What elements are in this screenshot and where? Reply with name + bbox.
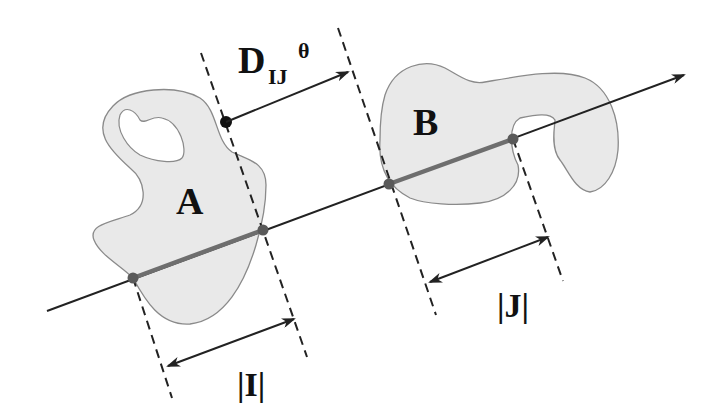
interval-j-arrow [430,237,548,282]
dot-b-start [384,179,395,190]
dot-a-end [258,225,269,236]
dot-b-end [508,134,519,145]
label-shape-b: B [413,101,438,143]
diagram-canvas: A B D IJ θ |I| |J| [0,0,715,419]
label-interval-j: |J| [497,287,529,324]
dot-a-start [128,273,139,284]
interval-i-arrow [168,319,294,366]
diagram-svg: A B D IJ θ |I| |J| [0,0,715,419]
label-distance-sub: IJ [268,64,288,89]
dashed-line-b-right [513,139,563,281]
label-distance-sup: θ [298,38,309,63]
label-interval-i: |I| [237,366,265,403]
label-shape-a: A [176,180,204,222]
label-distance-main: D [238,39,265,81]
